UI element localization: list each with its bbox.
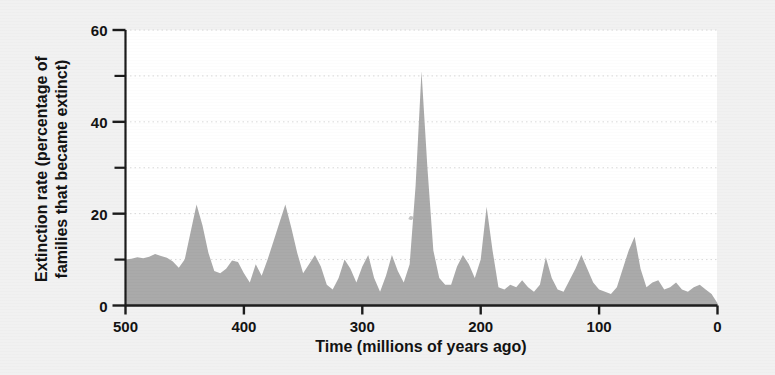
y-tick-label-20: 20 [91,205,108,222]
x-tick-label-0: 0 [713,318,721,335]
x-tick-label-200: 200 [468,318,493,335]
y-tick-label-60: 60 [91,22,108,39]
y-tick-label-0: 0 [99,297,107,314]
x-axis-title: Time (millions of years ago) [125,338,717,356]
figure: Extinction rate (percentage of families … [0,0,775,375]
x-tick-label-300: 300 [350,318,375,335]
x-tick-label-100: 100 [587,318,612,335]
x-tick-label-500: 500 [113,318,138,335]
x-tick-label-400: 400 [231,318,256,335]
y-tick-label-40: 40 [91,113,108,130]
